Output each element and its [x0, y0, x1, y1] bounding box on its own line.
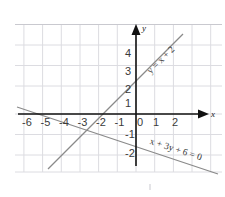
y-tick-label: 2	[125, 83, 131, 95]
x-tick-label: 2	[172, 116, 178, 128]
y-tick-label: 4	[125, 47, 131, 59]
y-tick-label: 3	[125, 65, 131, 77]
origin-label: 0	[137, 116, 143, 128]
y-tick-label: -2	[125, 147, 135, 159]
x-tick-label: -4	[59, 116, 69, 128]
x-axis-label: x	[210, 109, 215, 119]
equation-label-line2: x + 3y + 6 = 0	[149, 136, 204, 162]
x-tick-label: -3	[78, 116, 88, 128]
y-tick-label: -1	[125, 128, 135, 140]
graph-figure: x y -6 -5 -4 -3 -2 -1 1 2 0 4 3 2 1 -1 -…	[0, 0, 225, 197]
x-tick-label: -5	[41, 116, 51, 128]
coordinate-plane-svg: x y -6 -5 -4 -3 -2 -1 1 2 0 4 3 2 1 -1 -…	[0, 0, 225, 197]
x-tick-label: -6	[22, 116, 32, 128]
y-axis-label: y	[141, 23, 146, 33]
x-tick-label: 1	[153, 116, 159, 128]
x-tick-label: -2	[96, 116, 106, 128]
y-tick-label: 1	[125, 97, 131, 109]
x-tick-label: -1	[115, 116, 125, 128]
equation-label-line1: y = x + 2	[145, 44, 177, 76]
